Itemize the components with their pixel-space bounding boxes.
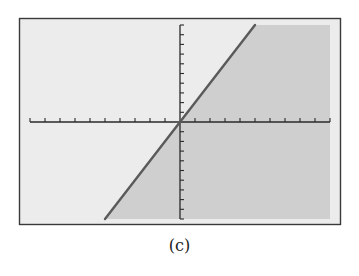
inequality-graph (0, 0, 359, 276)
figure-caption: (c) (0, 236, 359, 255)
